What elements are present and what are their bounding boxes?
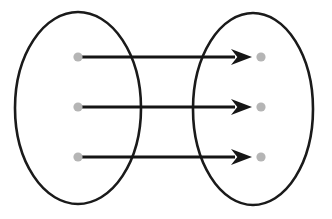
element-dot [256, 152, 265, 161]
element-dot [73, 52, 82, 61]
element-dot [73, 152, 82, 161]
diagram-canvas [0, 0, 332, 219]
element-dot [73, 102, 82, 111]
element-dot [256, 52, 265, 61]
element-dot [256, 102, 265, 111]
diagram-background [0, 0, 332, 219]
mapping-diagram [0, 0, 332, 219]
